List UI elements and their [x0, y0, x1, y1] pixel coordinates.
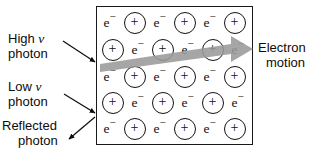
lattice-electron: e− — [147, 10, 172, 36]
electron-symbol: e− — [153, 16, 165, 30]
label-electron-motion-line2: motion — [258, 55, 306, 70]
lattice-row: e−+e−+e−+ — [97, 115, 252, 142]
positive-ion-circle: + — [202, 39, 224, 61]
plus-sign: + — [209, 42, 217, 56]
positive-ion-circle: + — [152, 92, 174, 114]
lattice-electron: e− — [97, 10, 122, 36]
lattice-positive-ion: + — [172, 64, 197, 90]
electron-charge-sign: − — [159, 116, 165, 128]
electron-symbol: e− — [203, 70, 215, 84]
electron-charge-sign: − — [237, 90, 243, 102]
positive-ion-circle: + — [174, 12, 196, 34]
lattice-positive-ion: + — [222, 116, 247, 142]
lattice-electron: e− — [197, 64, 222, 90]
positive-ion-circle: + — [202, 92, 224, 114]
lattice-positive-ion: + — [222, 10, 247, 36]
electron-symbol: e− — [103, 16, 115, 30]
electron-symbol: e− — [131, 43, 143, 57]
positive-ion-circle: + — [124, 66, 146, 88]
positive-ion-circle: + — [152, 39, 174, 61]
electron-symbol: e− — [131, 96, 143, 110]
positive-ion-circle: + — [102, 39, 124, 61]
lattice-electron: e− — [225, 37, 250, 63]
electron-charge-sign: − — [137, 90, 143, 102]
plus-sign: + — [231, 15, 239, 29]
electron-charge-sign: − — [237, 37, 243, 49]
label-low-nu-photon-line2: photon — [8, 94, 48, 109]
plus-sign: + — [131, 15, 139, 29]
electron-charge-sign: − — [187, 90, 193, 102]
label-low-nu-photon: Low ν photon — [8, 79, 48, 109]
plus-sign: + — [109, 42, 117, 56]
lattice-positive-ion: + — [172, 10, 197, 36]
label-reflected-photon-line1: Reflected — [2, 118, 57, 133]
lattice-electron: e− — [175, 37, 200, 63]
electron-symbol: e− — [203, 16, 215, 30]
lattice-electron: e− — [97, 64, 122, 90]
lattice-electron: e− — [197, 116, 222, 142]
positive-ion-circle: + — [102, 92, 124, 114]
lattice-positive-ion: + — [122, 64, 147, 90]
electron-charge-sign: − — [209, 64, 215, 76]
electron-charge-sign: − — [209, 10, 215, 22]
electron-symbol: e− — [153, 70, 165, 84]
lattice-positive-ion: + — [100, 90, 125, 116]
plus-sign: + — [159, 95, 167, 109]
plus-sign: + — [159, 42, 167, 56]
lattice-row: +e−+e−+e− — [97, 36, 252, 63]
electron-charge-sign: − — [109, 64, 115, 76]
label-low-nu-photon-line1: Low ν — [8, 79, 41, 94]
label-reflected-photon: Reflected photon — [2, 118, 58, 148]
electron-symbol: e− — [181, 96, 193, 110]
plus-sign: + — [131, 121, 139, 135]
electron-charge-sign: − — [137, 37, 143, 49]
electron-symbol: e− — [103, 70, 115, 84]
lattice-positive-ion: + — [200, 37, 225, 63]
lattice-electron: e− — [97, 116, 122, 142]
electron-charge-sign: − — [109, 116, 115, 128]
lattice-electron: e− — [125, 90, 150, 116]
electron-symbol: e− — [181, 43, 193, 57]
lattice-row: e−+e−+e−+ — [97, 63, 252, 90]
electron-charge-sign: − — [109, 10, 115, 22]
plus-sign: + — [181, 121, 189, 135]
electron-symbol: e− — [153, 122, 165, 136]
lattice-row: +e−+e−+e− — [97, 89, 252, 116]
positive-ion-circle: + — [124, 12, 146, 34]
lattice-electron: e− — [147, 116, 172, 142]
lattice-electron: e− — [147, 64, 172, 90]
positive-ion-circle: + — [174, 66, 196, 88]
electron-charge-sign: − — [209, 116, 215, 128]
plus-sign: + — [109, 95, 117, 109]
positive-ion-circle: + — [224, 118, 246, 140]
electron-charge-sign: − — [159, 10, 165, 22]
positive-ion-circle: + — [174, 118, 196, 140]
plus-sign: + — [181, 15, 189, 29]
lattice-electron: e− — [197, 10, 222, 36]
plus-sign: + — [231, 69, 239, 83]
label-high-nu-photon: High ν photon — [8, 31, 48, 61]
lattice-positive-ion: + — [150, 37, 175, 63]
lattice-row: e−+e−+e−+ — [97, 9, 252, 36]
physics-diagram: e−+e−+e−+ +e−+e−+e− e−+e−+e−+ +e−+e−+e− … — [0, 0, 325, 165]
lattice-positive-ion: + — [122, 10, 147, 36]
lattice-positive-ion: + — [100, 37, 125, 63]
electron-charge-sign: − — [187, 37, 193, 49]
lattice-positive-ion: + — [222, 64, 247, 90]
lattice-electron: e− — [225, 90, 250, 116]
metal-lattice-box: e−+e−+e−+ +e−+e−+e− e−+e−+e−+ +e−+e−+e− … — [96, 6, 253, 145]
lattice-electron: e− — [125, 37, 150, 63]
nu-symbol: ν — [38, 31, 44, 46]
lattice-positive-ion: + — [122, 116, 147, 142]
plus-sign: + — [131, 69, 139, 83]
label-reflected-photon-line2: photon — [2, 133, 58, 148]
lattice-positive-ion: + — [172, 116, 197, 142]
lattice-positive-ion: + — [150, 90, 175, 116]
plus-sign: + — [209, 95, 217, 109]
positive-ion-circle: + — [224, 12, 246, 34]
electron-symbol: e− — [231, 43, 243, 57]
lattice-positive-ion: + — [200, 90, 225, 116]
electron-symbol: e− — [231, 96, 243, 110]
positive-ion-circle: + — [124, 118, 146, 140]
label-electron-motion: Electron motion — [258, 40, 306, 70]
